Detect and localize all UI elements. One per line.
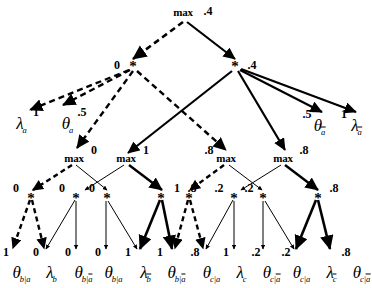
leaf-lambda-c: λc: [236, 264, 247, 281]
leaf-lambda-cbar: λc: [326, 264, 337, 281]
node-l2a-op: *: [129, 59, 137, 74]
leaf-theta-abar: θa: [314, 117, 327, 134]
value-leaf-6: 1: [157, 246, 163, 258]
edge-root-left: [133, 22, 183, 59]
node-star-7-value: .2: [245, 182, 254, 194]
edge-s8-leaf11: [296, 200, 316, 249]
theta-a-sub: a: [69, 125, 73, 135]
leaf-theta-b-a: θb|a: [12, 264, 31, 281]
node-star-1-op: *: [27, 191, 35, 206]
edge-s1-leaf2: [32, 200, 44, 248]
node-max-4-value: .8: [300, 144, 309, 156]
node-star-1-value: 0: [13, 182, 19, 194]
edge-max2-s4: [129, 165, 162, 190]
node-star-2-op: *: [72, 191, 80, 206]
node-max-1-op: max: [64, 153, 84, 164]
node-star-7-op: *: [259, 191, 267, 206]
leaf-theta-b-abar: θb|a: [74, 264, 93, 281]
node-root-value: .4: [204, 5, 213, 17]
edge-root-right: [187, 22, 235, 59]
leaf-lambda-b: λb: [46, 264, 58, 281]
value-lambda-a: 1: [33, 106, 39, 118]
edge-l2a-lambda-a: [30, 70, 129, 110]
value-leaf-12: .8: [342, 246, 351, 258]
node-max-1-value: 0: [91, 144, 97, 156]
edge-l2b-theta-abar: [240, 70, 322, 112]
lambda-abar-sub: a: [358, 127, 362, 136]
node-star-8-op: *: [314, 191, 322, 206]
value-leaf-10: .2: [282, 246, 291, 258]
value-leaf-9: .2: [252, 246, 261, 258]
leaf-2-sub: b: [53, 274, 57, 284]
leaf-theta-c-abar-2: θc|a: [353, 264, 372, 281]
edge-spacer: [188, 200, 204, 248]
leaf-theta-b-a-2: θb|a: [104, 264, 123, 281]
node-star-4-op: *: [157, 191, 165, 206]
value-leaf-3: 0: [65, 246, 71, 258]
node-l2b-op: *: [231, 59, 239, 74]
edge-s5-leaf7: [190, 200, 203, 248]
node-star-6-value: .2: [215, 182, 224, 194]
edge-max4-s8: [285, 165, 318, 190]
leaf-4-sub: b|a: [112, 274, 123, 284]
node-star-5-op: *: [185, 191, 193, 206]
node-root-op: max: [173, 7, 193, 18]
node-max-3-op: max: [216, 153, 236, 164]
leaf-theta-c-abar: θc|a: [263, 264, 282, 281]
leaf-11-sub-overbar: c: [333, 274, 337, 283]
value-leaf-1: 1: [3, 246, 9, 258]
leaf-theta-c-a: θc|a: [203, 264, 222, 281]
value-leaf-5: 1: [125, 246, 131, 258]
leaf-lambda-bbar: λb: [140, 264, 152, 281]
value-leaf-7: .8: [191, 246, 200, 258]
leaf-theta-a: θa: [62, 115, 75, 132]
leaf-8-sub: c: [243, 274, 247, 284]
node-star-2-value: 0: [59, 182, 65, 194]
leaf-lambda-abar: λa: [351, 117, 363, 134]
edge-s8-leaf12: [318, 200, 330, 249]
leaf-6-sub-overbar: a: [181, 274, 185, 283]
node-max-3-value: .8: [205, 144, 214, 156]
value-lambda-abar: 1: [341, 108, 347, 120]
node-max-2-op: max: [116, 153, 136, 164]
node-star-3-op: *: [103, 191, 111, 206]
leaf-lambda-a: λa: [16, 115, 28, 132]
leaf-10-sub: c|a: [300, 274, 310, 284]
edge-s4-leaf5: [140, 200, 160, 249]
edge-s2-leaf5: [108, 201, 137, 249]
node-star-3-value: 0: [89, 182, 95, 194]
edge-max1-s1: [33, 165, 72, 190]
node-star-6-op: *: [230, 191, 238, 206]
value-theta-abar: .5: [303, 108, 312, 120]
leaf-9-sub-overbar: a: [276, 274, 280, 283]
value-leaf-4: 0: [95, 246, 101, 258]
leaf-theta-b-abar-2: θb|a: [167, 264, 186, 281]
edge-s5-leaf7b: [175, 200, 188, 248]
node-l2b-value: .4: [248, 59, 257, 71]
value-theta-a: .5: [78, 106, 87, 118]
leaf-1-sub: b|a: [20, 274, 31, 284]
leaf-5-sub-overbar: b: [147, 274, 151, 283]
node-star-8-value: .8: [330, 182, 339, 194]
edge-s3-leaf2: [46, 200, 75, 249]
value-leaf-2: 0: [33, 246, 39, 258]
lambda-a-sub: a: [23, 125, 27, 135]
leaf-3-sub-overbar: a: [88, 274, 92, 283]
leaf-12-sub-overbar: a: [366, 274, 370, 283]
leaf-theta-c-a-2: θc|a: [293, 264, 312, 281]
leaf-7-sub: c|a: [210, 274, 220, 284]
circuit-figure: max .4 0 * * .4 λa 1 θa .5 θa .5 λa 1 ma…: [0, 0, 372, 288]
edge-s4-leaf6: [162, 200, 172, 249]
node-max-4-op: max: [273, 153, 293, 164]
node-max-2-value: 1: [143, 144, 149, 156]
theta-abar-sub: a: [321, 127, 325, 136]
node-star-4-value: 1: [174, 182, 180, 194]
node-l2a-value: 0: [114, 59, 120, 71]
value-leaf-8: 1: [223, 246, 229, 258]
edge-s1-leaf1: [13, 200, 30, 248]
edge-s7-leaf8: [206, 200, 233, 249]
edge-s6-leaf11: [265, 201, 294, 249]
edge-layer: [0, 0, 372, 288]
